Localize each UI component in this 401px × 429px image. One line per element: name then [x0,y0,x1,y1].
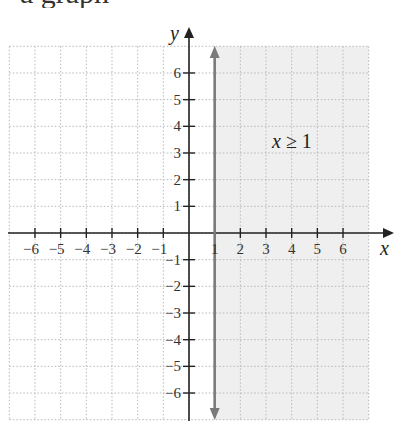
x-tick-label: 4 [288,241,296,257]
y-tick-label: −2 [165,278,181,294]
inequality-graph: −6−5−4−3−2−1123456−6−5−4−3−2−1123456 x y… [0,0,401,429]
y-tick-label: 2 [174,172,182,188]
x-tick-label: −2 [126,241,142,257]
x-axis-label: x [379,237,389,259]
x-tick-label: −5 [49,241,65,257]
x-tick-label: −6 [23,241,39,257]
x-tick-label: 2 [237,241,245,257]
inequality-label: x ≥ 1 [271,130,312,152]
y-tick-label: 4 [174,118,182,134]
y-tick-label: −1 [165,252,181,268]
x-tick-label: 3 [262,241,270,257]
y-tick-label: −4 [165,332,181,348]
x-tick-label: 5 [314,241,322,257]
y-tick-label: −5 [165,358,181,374]
x-tick-label: 1 [211,241,219,257]
y-tick-label: −6 [165,385,181,401]
y-axis-label: y [168,22,179,45]
x-tick-label: −4 [74,241,90,257]
x-tick-label: −3 [100,241,116,257]
y-tick-label: 1 [174,198,182,214]
y-tick-label: 6 [174,65,182,81]
x-tick-label: 6 [339,241,347,257]
y-tick-label: 3 [174,145,182,161]
y-tick-label: −3 [165,305,181,321]
y-tick-label: 5 [174,92,182,108]
y-axis-arrow-icon [184,27,194,38]
